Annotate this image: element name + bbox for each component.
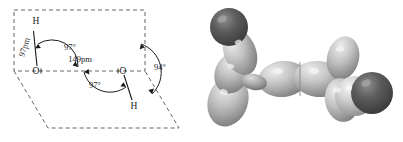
angle-label-left: 97° xyxy=(64,42,76,52)
molecular-render-panel xyxy=(200,0,403,142)
bond-length-label-oh: 97pm xyxy=(16,36,32,58)
geometry-diagram-panel: H O O H 97pm 149pm 97° 97° 94° xyxy=(0,0,200,142)
angle-label-dihedral: 94° xyxy=(154,62,166,72)
geometry-diagram-svg: H O O H 97pm 149pm 97° 97° 94° xyxy=(0,0,200,142)
bond-length-label-oo: 149pm xyxy=(68,54,92,64)
atom-label-h-bottom: H xyxy=(131,101,138,111)
angle-label-right: 97° xyxy=(89,80,101,90)
molecular-render-svg xyxy=(200,0,403,142)
atom-sphere-hydrogen-right xyxy=(351,72,393,114)
atom-label-o-left: O xyxy=(33,66,40,76)
bond-length-ticks xyxy=(41,69,118,74)
figure-container: H O O H 97pm 149pm 97° 97° 94° xyxy=(0,0,403,142)
atom-sphere-hydrogen-left xyxy=(210,8,248,46)
atom-label-o-right: O xyxy=(120,66,127,76)
atom-label-h-top: H xyxy=(33,16,40,26)
